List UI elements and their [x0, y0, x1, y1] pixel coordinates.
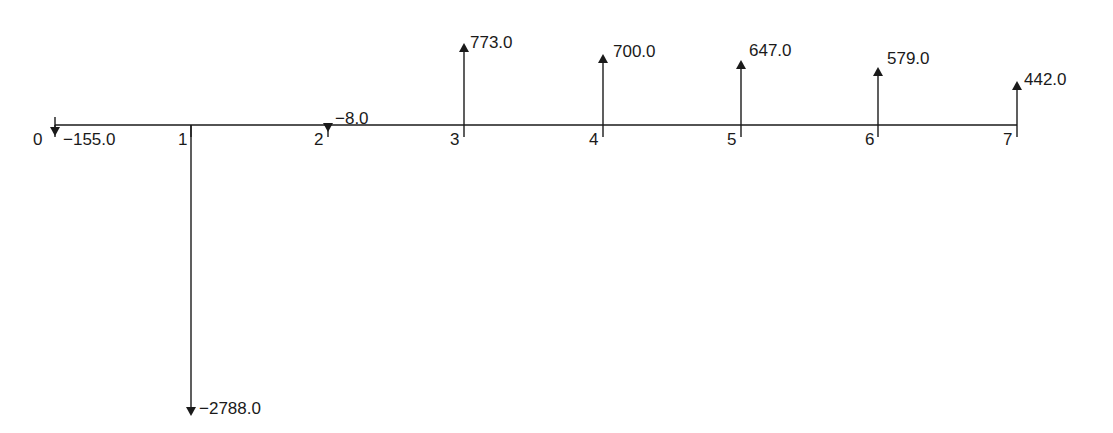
- period-label-1: 1: [178, 131, 187, 148]
- period-label-7: 7: [1003, 131, 1012, 148]
- cash-flow-value-5: 647.0: [749, 42, 792, 59]
- cash-flow-value-3: 773.0: [470, 34, 513, 51]
- cash-flow-diagram: [0, 0, 1113, 433]
- arrow-down-icon: [323, 123, 333, 132]
- cash-flow-value-7: 442.0: [1024, 71, 1067, 88]
- cash-flow-value-6: 579.0: [887, 50, 930, 67]
- arrow-down-icon: [50, 127, 60, 136]
- cash-flow-value-0: −155.0: [63, 131, 115, 148]
- arrow-up-icon: [1012, 81, 1022, 90]
- cash-flow-value-1: −2788.0: [199, 400, 261, 417]
- period-label-4: 4: [589, 131, 598, 148]
- arrow-up-icon: [598, 54, 608, 63]
- period-label-2: 2: [314, 131, 323, 148]
- cash-flow-value-4: 700.0: [613, 43, 656, 60]
- period-label-6: 6: [865, 131, 874, 148]
- period-label-3: 3: [450, 131, 459, 148]
- arrow-down-icon: [186, 407, 196, 416]
- arrow-up-icon: [459, 43, 469, 52]
- cash-flow-value-2: −8.0: [335, 110, 369, 127]
- period-label-0: 0: [33, 131, 42, 148]
- arrow-up-icon: [736, 60, 746, 69]
- period-label-5: 5: [727, 131, 736, 148]
- arrow-up-icon: [873, 67, 883, 76]
